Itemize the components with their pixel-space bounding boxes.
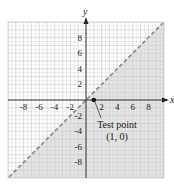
svg-text:4: 4: [78, 64, 83, 74]
svg-text:8: 8: [78, 33, 83, 43]
svg-text:-6: -6: [35, 102, 43, 112]
svg-text:-6: -6: [75, 142, 83, 152]
svg-text:8: 8: [146, 102, 151, 112]
annotation-label: Test point: [97, 119, 137, 130]
x-axis-arrow-icon: [162, 98, 169, 103]
svg-text:-8: -8: [75, 157, 83, 167]
svg-text:4: 4: [115, 102, 120, 112]
svg-text:-8: -8: [20, 102, 28, 112]
graph: x y -8 -6 -4 -2 2 4 6 8 8 6 4 2 -2 -4 -6…: [0, 0, 174, 190]
svg-text:-2: -2: [66, 102, 74, 112]
svg-text:6: 6: [131, 102, 136, 112]
x-axis-label: x: [169, 94, 174, 105]
svg-text:6: 6: [78, 48, 83, 58]
svg-text:-4: -4: [51, 102, 59, 112]
test-point-marker: [92, 98, 97, 103]
y-axis-label: y: [82, 6, 88, 17]
svg-text:-2: -2: [75, 111, 83, 121]
svg-text:2: 2: [99, 102, 104, 112]
svg-text:-4: -4: [75, 126, 83, 136]
y-axis-arrow-icon: [84, 17, 89, 24]
svg-text:2: 2: [78, 79, 83, 89]
annotation-coords: (1, 0): [106, 131, 128, 143]
